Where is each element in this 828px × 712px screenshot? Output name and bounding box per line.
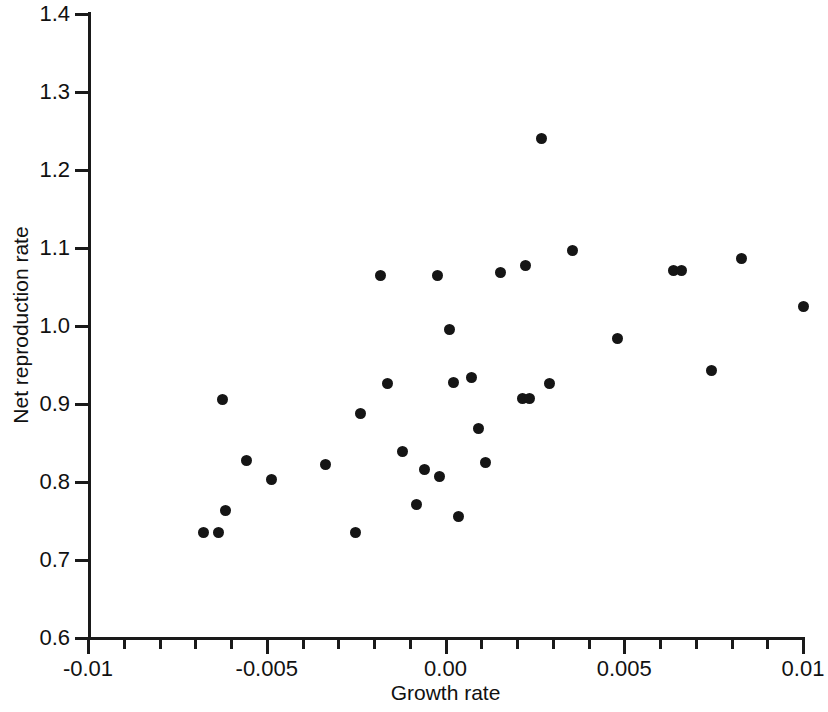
scatter-point [432, 270, 443, 281]
x-axis-tick-mark [588, 640, 591, 649]
scatter-point [397, 446, 408, 457]
scatter-point [453, 511, 464, 522]
y-axis-tick-mark [75, 169, 88, 172]
x-axis-tick-mark [409, 640, 412, 649]
y-axis-tick-label: 1.1 [20, 237, 70, 259]
x-axis-tick-mark [230, 640, 233, 649]
scatter-point [350, 527, 361, 538]
y-axis-tick-label: 0.7 [20, 549, 70, 571]
scatter-point [480, 457, 491, 468]
y-axis-tick-label: 1.2 [20, 159, 70, 181]
x-axis-tick-mark [623, 640, 626, 654]
scatter-point [266, 474, 277, 485]
x-axis-tick-mark [266, 640, 269, 654]
x-axis-tick-label: -0.01 [63, 657, 113, 681]
x-axis-tick-mark [302, 640, 305, 649]
scatter-point [444, 324, 455, 335]
x-axis-tick-mark [337, 640, 340, 649]
x-axis-tick-mark [123, 640, 126, 649]
x-axis-tick-label: 0.005 [597, 657, 652, 681]
scatter-point [495, 267, 506, 278]
x-axis-tick-mark [373, 640, 376, 649]
x-axis-tick-label: 0.01 [782, 657, 825, 681]
x-axis-tick-mark [802, 640, 805, 654]
scatter-point [419, 464, 430, 475]
scatter-plot-figure: Net reproduction rate 1.41.31.21.11.00.9… [0, 0, 828, 712]
x-axis-tick-mark [516, 640, 519, 649]
scatter-point [466, 372, 477, 383]
y-axis-tick-mark [75, 247, 88, 250]
x-axis-tick-label: -0.005 [236, 657, 298, 681]
y-axis-tick-label: 1.0 [20, 315, 70, 337]
scatter-point [320, 459, 331, 470]
y-axis-tick-label: 0.9 [20, 393, 70, 415]
x-axis-tick-mark [445, 640, 448, 654]
scatter-point [434, 471, 445, 482]
scatter-point [524, 393, 535, 404]
scatter-point [375, 270, 386, 281]
y-axis-tick-mark [75, 481, 88, 484]
x-axis-tick-mark [159, 640, 162, 649]
x-axis-tick-mark [731, 640, 734, 649]
scatter-point [213, 527, 224, 538]
scatter-point [676, 265, 687, 276]
y-axis-tick-mark [75, 13, 88, 16]
x-axis-tick-mark [552, 640, 555, 649]
y-axis-spine [88, 12, 91, 640]
scatter-point [382, 378, 393, 389]
scatter-point [241, 455, 252, 466]
scatter-point [736, 253, 747, 264]
scatter-point [567, 245, 578, 256]
scatter-point [536, 133, 547, 144]
scatter-point [520, 260, 531, 271]
y-axis-tick-label: 0.8 [20, 471, 70, 493]
scatter-point [217, 394, 228, 405]
x-axis-tick-mark [659, 640, 662, 649]
scatter-point [448, 377, 459, 388]
y-axis-tick-label: 0.6 [20, 627, 70, 649]
scatter-point [355, 408, 366, 419]
x-axis-title: Growth rate [88, 680, 803, 706]
y-axis-tick-mark [75, 559, 88, 562]
scatter-point [411, 499, 422, 510]
x-axis-tick-mark [194, 640, 197, 649]
x-axis-tick-label: 0.00 [424, 657, 467, 681]
scatter-point [473, 423, 484, 434]
y-axis-tick-mark [75, 325, 88, 328]
scatter-point [220, 505, 231, 516]
scatter-point [798, 301, 809, 312]
x-axis-tick-mark [766, 640, 769, 649]
x-axis-tick-mark [480, 640, 483, 649]
scatter-point [544, 378, 555, 389]
x-axis-tick-mark [695, 640, 698, 649]
y-axis-tick-label: 1.4 [20, 3, 70, 25]
y-axis-tick-mark [75, 403, 88, 406]
scatter-point [612, 333, 623, 344]
scatter-point [198, 527, 209, 538]
y-axis-tick-mark [75, 91, 88, 94]
y-axis-tick-label: 1.3 [20, 81, 70, 103]
x-axis-tick-mark [87, 640, 90, 654]
scatter-point [706, 365, 717, 376]
